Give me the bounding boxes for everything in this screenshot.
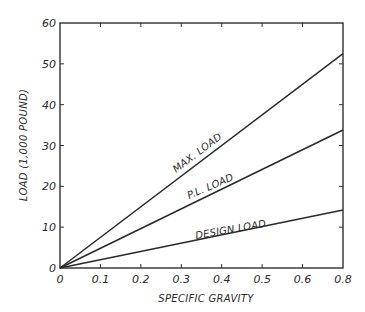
load-vs-specific-gravity-chart: 0102030405060 00.10.20.30.40.50.60.8 SPE… [0,0,365,312]
x-tick-label: 0.5 [253,273,271,286]
y-tick-label: 60 [42,17,56,30]
series-label-design-load: DESIGN LOAD [194,218,267,241]
x-tick-label: 0 [57,273,64,286]
y-tick-label: 30 [42,140,56,153]
y-tick-label: 40 [42,99,56,112]
y-axis-title: LOAD (1,000 POUND) [18,89,29,201]
x-tick-label: 0.4 [213,273,231,286]
y-axis: 0102030405060 [42,17,343,275]
x-tick-label: 0.8 [334,273,352,286]
x-axis-title: SPECIFIC GRAVITY [158,293,254,304]
x-tick-label: 0.3 [173,273,191,286]
series-label-max-load: MAX. LOAD [171,131,224,175]
x-tick-label: 0.1 [92,273,110,286]
x-tick-label: 0.2 [132,273,150,286]
x-axis: 00.10.20.30.40.50.60.8 [57,23,352,286]
y-tick-label: 10 [42,221,56,234]
y-tick-label: 0 [49,262,56,275]
y-tick-label: 50 [42,58,56,71]
x-tick-label: 0.6 [294,273,312,286]
y-tick-label: 20 [42,180,56,193]
